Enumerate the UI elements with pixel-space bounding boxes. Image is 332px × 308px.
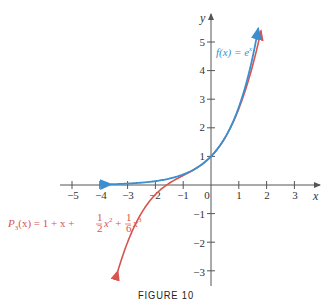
svg-text:6: 6 <box>126 222 132 234</box>
y-tick-label: −1 <box>193 208 205 220</box>
origin-label: 0 <box>204 189 210 201</box>
y-axis-label: y <box>199 11 206 25</box>
x-tick-labels: −5 −4 −3 −2 −1 0 1 2 3 <box>67 189 298 201</box>
exp-label-exponent: x <box>248 45 253 53</box>
svg-text:x2 +: x2 + <box>103 216 121 229</box>
y-tick-label: −3 <box>193 266 205 278</box>
y-tick-label: 1 <box>200 150 206 162</box>
x-tick-label: 3 <box>292 189 298 201</box>
x-axis-label: x <box>312 189 319 203</box>
x-tick-label: −4 <box>95 189 107 201</box>
x-tick-label: −1 <box>177 189 189 201</box>
x-tick-label: −3 <box>122 189 134 201</box>
x-tick-label: −5 <box>67 189 79 201</box>
x-tick-label: 1 <box>236 189 242 201</box>
x-tick-label: 2 <box>264 189 270 201</box>
y-tick-label: 3 <box>200 93 206 105</box>
axes <box>60 14 320 286</box>
taylor-polynomial-curve <box>118 31 261 271</box>
svg-text:2: 2 <box>97 222 103 234</box>
svg-text:P3(x) = 1 + x +: P3(x) = 1 + x + <box>7 217 74 232</box>
y-tick-label: 2 <box>200 121 206 133</box>
exp-function-label: f(x) = ex <box>216 45 253 59</box>
svg-text:x3: x3 <box>132 216 142 229</box>
y-tick-label: 4 <box>200 64 206 76</box>
y-tick-labels: 5 4 3 2 1 −1 −2 −3 <box>193 36 205 278</box>
y-tick-label: −2 <box>193 237 205 249</box>
y-tick-label: 5 <box>200 36 206 48</box>
exp-label-main: f(x) = e <box>216 46 249 59</box>
taylor-polynomial-label: P3(x) = 1 + x + 1 2 x2 + 1 6 x3 <box>7 211 142 234</box>
figure-caption: FIGURE 10 <box>25 289 307 301</box>
chart-figure: −5 −4 −3 −2 −1 0 1 2 3 5 4 3 2 1 −1 −2 −… <box>0 0 332 308</box>
